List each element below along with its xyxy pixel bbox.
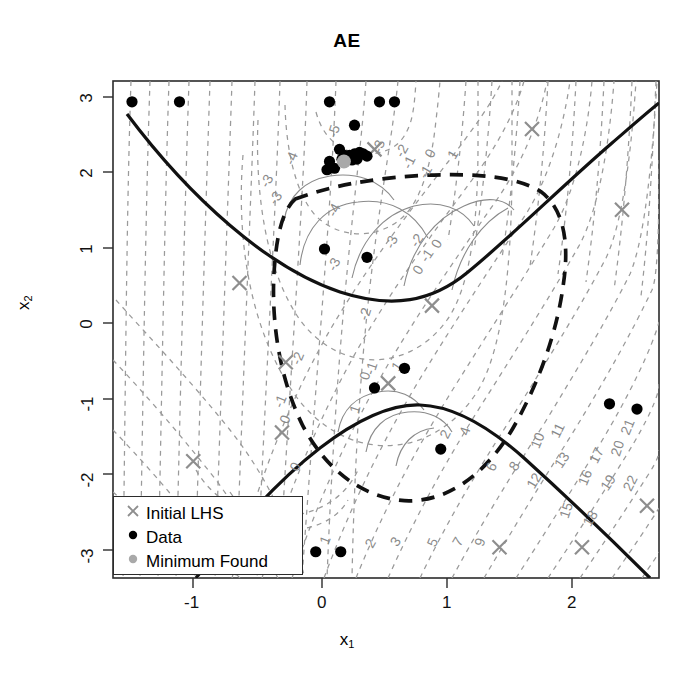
xtick-label-0: 0: [317, 593, 326, 613]
data-point: [351, 154, 362, 165]
initial-lhs-markers: [186, 122, 654, 554]
contour-label: 9: [471, 536, 489, 549]
contour-label: 11: [547, 420, 568, 440]
contour-label: -3: [324, 255, 344, 273]
contour-label: 3: [387, 534, 405, 550]
data-point: [126, 96, 137, 107]
data-point: [604, 398, 615, 409]
lhs-marker: [425, 299, 439, 313]
contour-label: 0: [421, 146, 439, 160]
ytick-label-0: 0: [77, 319, 97, 328]
contour-label: -4: [324, 201, 344, 219]
legend-item-minimum-found: Minimum Found: [120, 549, 296, 573]
xtick-label-m1: -1: [184, 593, 199, 613]
contour-label: 1: [316, 533, 334, 546]
contour-label: 19: [597, 471, 619, 493]
contour-label: 21: [617, 416, 638, 437]
contour-label: 13: [551, 449, 573, 471]
contour-label: -3: [265, 188, 285, 207]
legend-label-minimum-found: Minimum Found: [146, 553, 268, 570]
lhs-marker: [275, 425, 289, 439]
data-point: [361, 151, 372, 162]
xtick-label-1: 1: [442, 593, 451, 613]
data-point: [631, 403, 642, 414]
lhs-marker: [615, 203, 629, 217]
contour-label: 2: [361, 536, 379, 551]
contour-label: 17: [586, 445, 607, 466]
contour-label: 16: [575, 467, 596, 488]
legend-label-initial-lhs: Initial LHS: [146, 505, 223, 522]
data-point: [321, 164, 332, 175]
lhs-marker: [233, 276, 247, 290]
contour-label: 2: [436, 427, 454, 441]
yaxis-title-sub: 2: [22, 295, 34, 301]
data-point: [361, 252, 372, 263]
contour-label: 4: [456, 425, 474, 438]
lhs-marker: [525, 122, 539, 136]
plot-canvas: -5-4-4-3-3-3-3-3-2-2-2-2-1-1-1-1-1000000…: [0, 0, 694, 676]
figure-root: AE: [0, 0, 694, 676]
xtick-label-2: 2: [567, 593, 576, 613]
ytick-label-2: 2: [77, 168, 97, 177]
data-point: [324, 96, 335, 107]
ytick-label-3: 3: [77, 93, 97, 102]
contour-label: 10: [527, 430, 548, 451]
data-point: [349, 120, 360, 131]
data-point-markers: [126, 96, 642, 557]
contour-label: -2: [355, 305, 374, 322]
data-point: [174, 96, 185, 107]
data-point: [319, 243, 330, 254]
contour-label: 0: [409, 262, 427, 278]
contour-label: -1: [415, 162, 435, 181]
data-point: [389, 96, 400, 107]
data-point: [435, 443, 446, 454]
contour-label-group: -5-4-4-3-3-3-3-3-2-2-2-2-1-1-1-1-1000000…: [256, 123, 640, 551]
contour-label: 0: [276, 412, 294, 425]
data-point: [369, 382, 380, 393]
data-point: [310, 546, 321, 557]
ytick-label-m1: -1: [78, 396, 98, 411]
ytick-label-1: 1: [77, 244, 97, 253]
ytick-label-m3: -3: [78, 548, 98, 563]
contour-label: 0: [428, 236, 446, 251]
contour-label: -5: [324, 123, 343, 140]
contour-label: 20: [607, 438, 627, 458]
lhs-marker: [640, 499, 654, 513]
xaxis-title-base: x: [340, 630, 349, 649]
yaxis-title: x2: [14, 295, 34, 310]
yaxis-title-base: x: [14, 302, 33, 311]
gray-dot-marker-icon: [120, 551, 146, 571]
xaxis-title: x1: [0, 630, 694, 650]
xaxis-title-sub: 1: [348, 638, 354, 650]
contour-label: 5: [424, 536, 442, 549]
data-point: [399, 363, 410, 374]
contour-label: -4: [281, 149, 301, 167]
lhs-marker: [575, 540, 589, 554]
contour-label: -1: [270, 392, 290, 410]
minimum-found-marker: [337, 154, 351, 168]
legend-box: Initial LHS Data Minimum Found: [113, 496, 303, 575]
legend-label-data: Data: [146, 529, 182, 546]
x-marker-icon: [120, 503, 146, 523]
minimum-found-point: [337, 154, 351, 168]
ytick-label-m2: -2: [78, 472, 98, 487]
legend-item-data: Data: [120, 525, 296, 549]
contour-label: 22: [619, 472, 640, 493]
contour-label: -3: [381, 233, 401, 251]
contour-label: 1: [444, 147, 462, 162]
contour-label: 6: [482, 459, 500, 473]
contour-label: 7: [449, 534, 467, 549]
legend-item-initial-lhs: Initial LHS: [120, 501, 296, 525]
dot-marker-icon: [120, 527, 146, 547]
contour-label: 8: [505, 458, 523, 474]
contour-label: -3: [256, 171, 276, 190]
contour-label: 1: [346, 403, 364, 416]
lhs-marker: [381, 376, 395, 390]
data-point: [335, 546, 346, 557]
data-point: [374, 96, 385, 107]
